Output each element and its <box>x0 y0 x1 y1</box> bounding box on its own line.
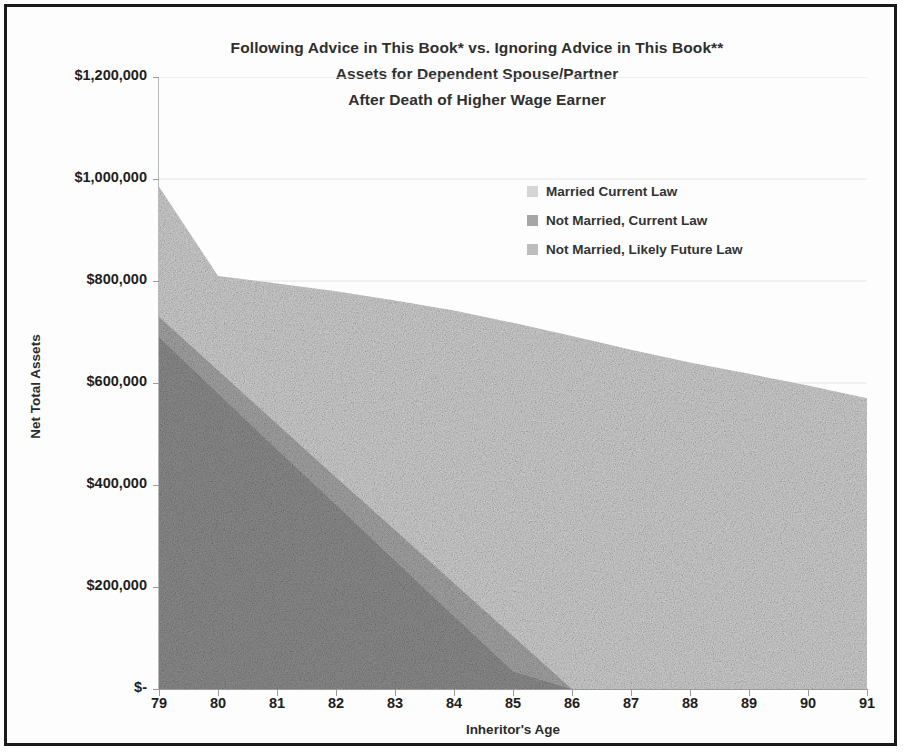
x-axis-title: Inheritor's Age <box>159 722 867 737</box>
plot-area <box>159 77 867 689</box>
x-tick-mark <box>218 690 219 696</box>
x-tick-label: 89 <box>729 695 769 711</box>
legend-item[interactable]: Married Current Law <box>527 177 743 206</box>
y-tick-mark <box>153 281 159 282</box>
x-tick-mark <box>631 690 632 696</box>
y-tick-label: $400,000 <box>27 475 147 491</box>
x-tick-mark <box>808 690 809 696</box>
y-tick-mark <box>153 485 159 486</box>
legend-item-label: Married Current Law <box>546 184 677 199</box>
y-tick-mark <box>153 587 159 588</box>
legend-swatch-icon <box>527 186 538 197</box>
y-axis-tick-labels: $1,200,000$1,000,000$800,000$600,000$400… <box>21 7 147 746</box>
legend-swatch-icon <box>527 215 538 226</box>
y-tick-label: $600,000 <box>27 373 147 389</box>
chart-legend: Married Current LawNot Married, Current … <box>527 177 743 264</box>
x-tick-label: 81 <box>257 695 297 711</box>
x-tick-label: 87 <box>611 695 651 711</box>
y-tick-label: $200,000 <box>27 577 147 593</box>
y-tick-label: $1,200,000 <box>27 67 147 83</box>
legend-item-label: Not Married, Current Law <box>546 213 707 228</box>
x-axis-tick-labels: 79808182838485868788899091 <box>159 695 867 719</box>
x-tick-mark <box>513 690 514 696</box>
x-tick-label: 83 <box>375 695 415 711</box>
x-tick-label: 90 <box>788 695 828 711</box>
x-tick-label: 80 <box>198 695 238 711</box>
x-tick-mark <box>572 690 573 696</box>
legend-swatch-icon <box>527 244 538 255</box>
x-tick-label: 88 <box>670 695 710 711</box>
legend-item-label: Not Married, Likely Future Law <box>546 242 743 257</box>
y-tick-label: $800,000 <box>27 271 147 287</box>
y-tick-mark <box>153 77 159 78</box>
legend-item[interactable]: Not Married, Current Law <box>527 206 743 235</box>
y-tick-mark <box>153 179 159 180</box>
x-tick-label: 86 <box>552 695 592 711</box>
area-chart-svg <box>159 77 867 689</box>
x-tick-mark <box>336 690 337 696</box>
x-tick-label: 79 <box>139 695 179 711</box>
legend-item[interactable]: Not Married, Likely Future Law <box>527 235 743 264</box>
y-tick-label: $1,000,000 <box>27 169 147 185</box>
chart-frame: Following Advice in This Book* vs. Ignor… <box>4 4 897 746</box>
chart-title-line-1: Following Advice in This Book* vs. Ignor… <box>127 35 827 61</box>
x-tick-mark <box>277 690 278 696</box>
x-tick-mark <box>159 690 160 696</box>
x-tick-label: 82 <box>316 695 356 711</box>
x-tick-mark <box>867 690 868 696</box>
x-tick-mark <box>395 690 396 696</box>
y-tick-mark <box>153 383 159 384</box>
x-tick-mark <box>690 690 691 696</box>
x-tick-mark <box>454 690 455 696</box>
y-tick-label: $- <box>27 679 147 695</box>
x-tick-label: 91 <box>847 695 887 711</box>
x-tick-label: 84 <box>434 695 474 711</box>
x-tick-label: 85 <box>493 695 533 711</box>
x-tick-mark <box>749 690 750 696</box>
